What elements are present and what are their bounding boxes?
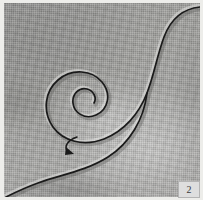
figure-number-badge: 2 — [178, 181, 200, 198]
cloth-panel — [4, 3, 200, 197]
spiral-drawing-svg — [4, 3, 200, 197]
drawing-layer — [4, 3, 200, 197]
direction-arrowhead — [65, 147, 74, 155]
figure-number-label: 2 — [187, 185, 192, 195]
figure-image: 2 — [0, 0, 203, 200]
stitch-highlight-group — [5, 6, 199, 196]
